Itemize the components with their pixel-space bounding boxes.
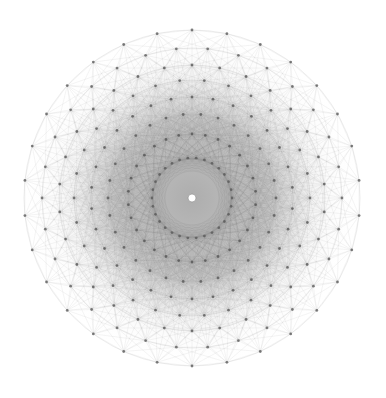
vertex	[259, 147, 262, 150]
vertex	[66, 84, 69, 87]
vertex	[186, 236, 189, 239]
vertex	[149, 124, 152, 127]
vertex	[289, 333, 292, 336]
vertex	[108, 179, 111, 182]
vertex	[130, 177, 133, 180]
vertex	[170, 295, 173, 298]
vertex	[64, 238, 67, 241]
vertex	[112, 109, 115, 112]
vertex	[231, 197, 234, 200]
vertex	[223, 173, 226, 176]
vertex	[230, 205, 233, 208]
vertex	[278, 247, 281, 250]
vertex	[291, 186, 294, 189]
vertex	[75, 172, 78, 175]
vertex	[350, 145, 353, 148]
vertex	[92, 108, 95, 111]
vertex	[203, 159, 206, 162]
polytope-graph	[0, 0, 386, 398]
vertex	[152, 188, 155, 191]
vertex	[291, 85, 294, 88]
vertex	[306, 221, 309, 224]
vertex	[137, 75, 140, 78]
vertex	[154, 309, 157, 312]
vertex	[246, 229, 249, 232]
vertex	[90, 308, 93, 311]
vertex	[289, 108, 292, 111]
vertex	[266, 67, 269, 70]
vertex	[154, 180, 157, 183]
vertex	[127, 190, 130, 193]
vertex	[191, 133, 194, 136]
vertex	[358, 214, 361, 217]
vertex	[123, 147, 126, 150]
vertex	[246, 165, 249, 168]
vertex	[164, 167, 167, 170]
vertex	[269, 89, 272, 92]
vertex	[149, 269, 152, 272]
vertex	[134, 259, 137, 262]
vertex	[312, 108, 315, 111]
vertex	[44, 165, 47, 168]
vertex	[191, 298, 194, 301]
vertex	[24, 214, 27, 217]
vertex	[298, 245, 301, 248]
vertex	[217, 226, 220, 229]
vertex	[112, 284, 115, 287]
vertex	[309, 197, 312, 200]
vertex	[175, 346, 178, 349]
vertex	[151, 197, 154, 200]
vertex	[226, 32, 229, 35]
vertex	[217, 138, 220, 141]
vertex	[75, 130, 78, 133]
vertex	[247, 134, 250, 137]
vertex	[250, 299, 253, 302]
vertex	[238, 239, 241, 242]
vertex	[134, 134, 137, 137]
vertex	[217, 255, 220, 258]
vertex	[73, 197, 76, 200]
vertex	[103, 146, 106, 149]
vertex	[237, 54, 240, 57]
vertex	[150, 104, 153, 107]
vertex	[163, 327, 166, 330]
vertex	[112, 89, 115, 92]
vertex	[41, 197, 44, 200]
vertex	[273, 179, 276, 182]
vertex	[135, 229, 138, 232]
vertex	[122, 350, 125, 353]
vertex	[92, 333, 95, 336]
vertex	[83, 149, 86, 152]
vertex	[245, 75, 248, 78]
vertex	[177, 134, 180, 137]
vertex	[165, 117, 168, 120]
vertex	[171, 231, 174, 234]
vertex	[92, 286, 95, 289]
vertex	[31, 249, 34, 252]
vertex	[291, 308, 294, 311]
vertex	[203, 235, 206, 238]
vertex	[54, 258, 57, 261]
vertex	[191, 261, 194, 264]
vertex	[154, 84, 157, 87]
vertex	[291, 207, 294, 210]
vertex	[95, 127, 98, 130]
vertex	[278, 146, 281, 149]
vertex	[275, 197, 278, 200]
vertex	[137, 318, 140, 321]
vertex	[245, 318, 248, 321]
vertex	[252, 216, 255, 219]
vertex	[31, 145, 34, 148]
vertex	[232, 289, 235, 292]
vertex	[182, 113, 185, 116]
vertex	[178, 235, 181, 238]
vertex	[90, 186, 93, 189]
vertex	[230, 188, 233, 191]
vertex	[144, 339, 147, 342]
vertex	[254, 203, 257, 206]
vertex	[315, 84, 318, 87]
vertex	[131, 278, 134, 281]
vertex	[199, 280, 202, 283]
vertex	[266, 129, 269, 132]
vertex	[237, 339, 240, 342]
